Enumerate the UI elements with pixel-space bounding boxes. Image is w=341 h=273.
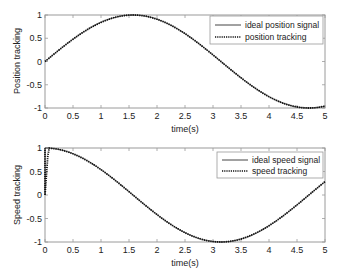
x-tick-label: 4.5 xyxy=(291,245,304,255)
x-tick-label: 5 xyxy=(322,111,327,121)
x-tick-label: 2 xyxy=(154,111,159,121)
x-tick-label: 0.5 xyxy=(67,111,80,121)
legend-label-ideal: ideal position signal xyxy=(245,20,319,30)
y-tick-label: 0 xyxy=(37,57,42,67)
x-tick-label: 1 xyxy=(98,111,103,121)
x-tick-label: 3.5 xyxy=(235,245,248,255)
y-axis-label: Position tracking xyxy=(12,28,22,94)
x-tick-label: 5 xyxy=(322,245,327,255)
x-axis-label: time(s) xyxy=(171,258,199,268)
x-tick-label: 3 xyxy=(210,245,215,255)
y-axis-label: Speed tracking xyxy=(12,165,22,225)
x-tick-label: 4 xyxy=(266,111,271,121)
x-tick-label: 3 xyxy=(210,111,215,121)
legend-label-ideal: ideal speed signal xyxy=(252,155,320,165)
legend-label-tracking: position tracking xyxy=(245,32,307,42)
x-tick-label: 2.5 xyxy=(179,245,192,255)
speed-plot: 00.511.522.533.544.55 -1-0.500.51 time(s… xyxy=(12,143,328,268)
y-tick-label: 1 xyxy=(37,143,42,153)
y-tick-label: -1 xyxy=(34,237,42,247)
x-tick-label: 4 xyxy=(266,245,271,255)
figure: 00.511.522.533.544.55 -1-0.500.51 time(s… xyxy=(0,0,341,273)
legend-label-tracking: speed tracking xyxy=(252,166,308,176)
x-tick-label: 0 xyxy=(42,111,47,121)
legend: ideal speed signal speed tracking xyxy=(217,152,323,178)
x-tick-label: 0 xyxy=(42,245,47,255)
x-tick-label: 3.5 xyxy=(235,111,248,121)
x-tick-label: 1.5 xyxy=(123,111,136,121)
y-tick-label: 0 xyxy=(37,190,42,200)
x-tick-label: 0.5 xyxy=(67,245,80,255)
y-tick-label: -0.5 xyxy=(26,214,42,224)
x-tick-label: 4.5 xyxy=(291,111,304,121)
y-tick-label: -1 xyxy=(34,103,42,113)
x-tick-label: 1 xyxy=(98,245,103,255)
y-tick-label: -0.5 xyxy=(26,80,42,90)
y-tick-label: 0.5 xyxy=(29,33,42,43)
legend: ideal position signal position tracking xyxy=(210,16,323,44)
x-tick-label: 2 xyxy=(154,245,159,255)
x-tick-label: 1.5 xyxy=(123,245,136,255)
x-tick-label: 2.5 xyxy=(179,111,192,121)
x-axis-label: time(s) xyxy=(171,124,199,134)
y-tick-label: 0.5 xyxy=(29,167,42,177)
position-plot: 00.511.522.533.544.55 -1-0.500.51 time(s… xyxy=(12,10,328,134)
y-tick-label: 1 xyxy=(37,10,42,20)
